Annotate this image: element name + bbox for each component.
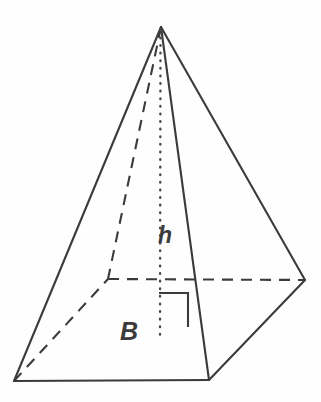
base-edge-front-right <box>209 280 305 380</box>
base-label: B <box>120 319 138 344</box>
right-angle-icon <box>159 293 188 327</box>
hidden-base-edge-back-right <box>108 279 305 280</box>
pyramid-figure: h B <box>0 0 321 402</box>
pyramid-diagram-svg <box>0 0 321 402</box>
height-dotted-line <box>160 30 161 335</box>
height-label: h <box>158 224 172 247</box>
edge-apex-to-front-left <box>14 27 161 381</box>
edge-apex-to-front-right <box>161 27 209 380</box>
edge-apex-to-right <box>161 27 305 280</box>
base-edge-front <box>14 380 209 381</box>
hidden-base-edge-back-left <box>14 279 108 381</box>
hidden-edge-apex-to-back <box>108 27 161 279</box>
